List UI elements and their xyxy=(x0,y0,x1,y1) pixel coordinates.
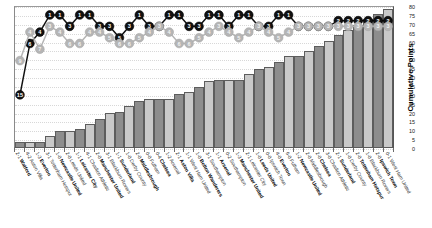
x-axis-category: 1-3 Manchester United xyxy=(234,149,244,228)
bar xyxy=(124,106,134,147)
bar xyxy=(353,25,363,147)
x-axis-category: 0-0 Ipswich Town xyxy=(264,149,274,228)
y-axis-right-label: Cumulative Points xyxy=(404,6,418,149)
x-axis-category: 4-0 Everton xyxy=(274,149,284,228)
x-axis-category: 2-0 Middlesbrough xyxy=(134,149,144,228)
bar xyxy=(334,35,344,147)
bar xyxy=(383,9,393,147)
bar xyxy=(343,30,353,147)
x-axis-category: 0-4 Chelsea xyxy=(154,149,164,228)
bar xyxy=(134,101,144,147)
plot-area: 1564113113353133113311311331133332222229… xyxy=(14,6,394,148)
x-axis-category: 2-0 Middlesbrough xyxy=(304,149,314,228)
x-axis-category: 3-1 Southampton xyxy=(204,149,214,228)
x-axis-category: 0-1 West Ham United xyxy=(384,149,394,228)
x-axis-labels: 2-1 Watford4-2 Aston Villa1-3 Everton3-1… xyxy=(14,149,394,228)
x-axis-category: 2-0 Chelsea xyxy=(314,149,324,228)
x-axis-category: 1-0 Leeds United xyxy=(254,149,264,228)
x-axis-category: 1-2 Arsenal xyxy=(164,149,174,228)
bar xyxy=(85,124,95,147)
bar xyxy=(294,56,304,147)
bar xyxy=(274,62,284,147)
x-axis-category: 1-0 Derby County xyxy=(344,149,354,228)
bar xyxy=(174,94,184,147)
x-axis-category: 1-3 Everton xyxy=(34,149,44,228)
bar xyxy=(194,87,204,147)
bar xyxy=(65,131,75,147)
bar xyxy=(144,99,154,147)
opponent-name: West Ham United xyxy=(389,158,413,194)
chart-root: 1564113113353133113311311331133332222229… xyxy=(0,0,432,228)
x-axis-category: 2-1 Watford xyxy=(14,149,24,228)
bar xyxy=(304,51,314,147)
bar xyxy=(214,80,224,147)
bar xyxy=(363,19,373,147)
bar xyxy=(35,142,45,147)
x-axis-category: 1-1 Sunderland xyxy=(114,149,124,228)
bar-series xyxy=(15,7,393,147)
bar xyxy=(254,69,264,147)
x-axis-category: 1-0 Blackburn Rovers xyxy=(364,149,374,228)
bar xyxy=(164,99,174,147)
bar xyxy=(314,46,324,147)
x-axis-category: 3-1 Blackburn Rovers xyxy=(104,149,114,228)
x-axis-category: 1-0 Derby County xyxy=(124,149,134,228)
x-axis-category: 1-0 Bolton Wanderers xyxy=(194,149,204,228)
bar xyxy=(284,56,294,147)
bar xyxy=(95,119,105,147)
bar xyxy=(184,92,194,147)
x-axis-category: 4-2 Aston Villa xyxy=(24,149,34,228)
x-axis-category: 2-0 Ipswich Town xyxy=(374,149,384,228)
x-axis-category: 2-1 Sunderland xyxy=(334,149,344,228)
bar xyxy=(55,131,65,147)
x-axis-category: 2-0 Tottenham Hotspur xyxy=(354,149,364,228)
bar xyxy=(234,80,244,147)
y-axis-right-label-text: Cumulative Points xyxy=(407,44,416,112)
x-axis-category: 3-0 Charlton Athletic xyxy=(324,149,334,228)
bar xyxy=(15,142,25,147)
bar xyxy=(373,14,383,147)
x-axis-category: 1-1 Arsenal xyxy=(214,149,224,228)
bar xyxy=(25,142,35,147)
bar xyxy=(45,136,55,147)
x-axis-category: 3-1 Tottenham Hotspur xyxy=(44,149,54,228)
x-axis-category: 4-1 Charlton Athletic xyxy=(84,149,94,228)
bar xyxy=(324,41,334,148)
x-axis-category: 2-0 Manchester United xyxy=(94,149,104,228)
bar xyxy=(154,99,164,147)
x-axis-category: 0-2 Southampton xyxy=(224,149,234,228)
x-axis-category: 1-1 Leicester City xyxy=(74,149,84,228)
x-axis-category: 1-1 West Ham United xyxy=(184,149,194,228)
bar xyxy=(105,113,115,147)
bar xyxy=(264,67,274,147)
bar xyxy=(244,74,254,147)
bar xyxy=(224,80,234,147)
x-axis-category: 2-1 Leicester City xyxy=(244,149,254,228)
x-axis-category: 2-0 Leeds United xyxy=(64,149,74,228)
x-axis-category: 0-0 Fulham xyxy=(144,149,154,228)
x-axis-category: 1-0 Newcastle United xyxy=(54,149,64,228)
x-axis-category: 2-1 Aston Villa xyxy=(174,149,184,228)
bar xyxy=(75,129,85,147)
x-axis-category: 1-2 Newcastle United xyxy=(294,149,304,228)
bar xyxy=(115,112,125,148)
bar xyxy=(204,81,214,147)
x-axis-category: 6-0 Fulham xyxy=(284,149,294,228)
